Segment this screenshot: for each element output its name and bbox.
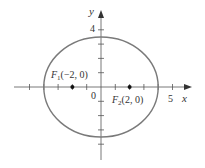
focus-label-f1: F1(−2, 0): [50, 69, 88, 82]
origin-label: 0: [91, 90, 96, 101]
y-axis-label: y: [88, 5, 94, 17]
y-axis-arrow-icon: [98, 10, 104, 18]
x-tick-label-5: 5: [168, 93, 173, 104]
x-axis-arrow-icon: [184, 84, 192, 90]
y-tick-label-4: 4: [90, 23, 95, 34]
focus-label-f2: F2(2, 0): [111, 94, 143, 107]
ellipse-diagram: y 4 x 5 0 F1(−2, 0) F2(2, 0): [0, 0, 205, 168]
x-axis-label: x: [181, 92, 187, 104]
focus-point-f1: [70, 85, 74, 89]
focus-point-f2: [128, 85, 132, 89]
